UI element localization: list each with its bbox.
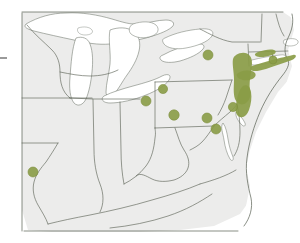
marker-long-island-east — [269, 56, 277, 64]
marker-ontario-lakeplain — [203, 50, 213, 60]
lake-detail-upper — [77, 27, 92, 35]
marker-southwest-illinois — [28, 167, 38, 177]
distribution-map-figure — [0, 0, 300, 243]
marker-northeast-ohio — [158, 84, 167, 93]
marker-chesapeake-head — [211, 124, 221, 134]
marker-delaware-valley — [228, 102, 237, 111]
marker-south-penn — [202, 113, 212, 123]
marker-central-penn — [169, 110, 179, 120]
marker-cleveland — [141, 96, 151, 106]
map-canvas — [0, 0, 300, 243]
georgian-bay — [129, 22, 158, 38]
